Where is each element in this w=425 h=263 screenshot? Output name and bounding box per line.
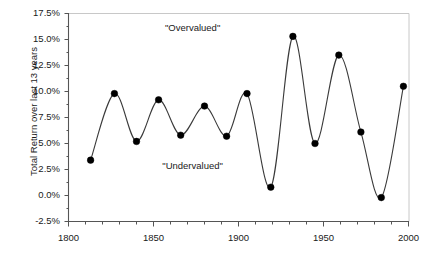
- series-data-point: [312, 140, 319, 147]
- series-data-point: [244, 90, 251, 97]
- series-data-point: [201, 103, 208, 110]
- series-data-point: [155, 97, 162, 104]
- series-data-point: [177, 132, 184, 139]
- series-data-point: [378, 194, 385, 201]
- series-data-point: [290, 33, 297, 40]
- series-data-point: [223, 133, 230, 140]
- plot-area: [0, 0, 425, 263]
- series-data-point: [111, 90, 118, 97]
- series-line: [91, 36, 404, 198]
- series-data-point: [358, 129, 365, 136]
- series-data-point: [336, 52, 343, 59]
- series-data-point: [133, 138, 140, 145]
- series-data-point: [400, 83, 407, 90]
- chart-container: Total Return over last 13 years 17.5%15.…: [0, 0, 425, 263]
- series-data-point: [268, 184, 275, 191]
- series-data-point: [87, 157, 94, 164]
